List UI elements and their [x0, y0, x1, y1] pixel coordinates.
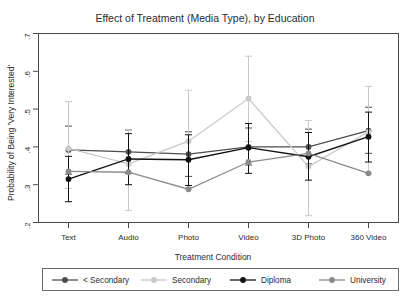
x-tick-label: 360 Video — [351, 233, 387, 242]
data-point — [246, 145, 252, 151]
series-secondary — [65, 56, 372, 216]
plot-frame — [39, 34, 399, 223]
data-point — [366, 134, 372, 140]
data-point — [66, 146, 72, 152]
series-line — [69, 99, 369, 167]
x-axis-ticks: TextAudioPhotoVideo3D Photo360 Video — [61, 223, 387, 243]
chart-series-group — [65, 56, 372, 216]
legend-label-4: University — [350, 276, 387, 285]
x-tick-label: Photo — [178, 233, 199, 242]
y-tick-label: .7 — [23, 33, 32, 40]
data-point — [366, 170, 372, 176]
data-point — [246, 159, 252, 165]
y-tick-label: .5 — [23, 108, 32, 115]
chart-legend: < SecondarySecondaryDiplomaUniversity — [52, 276, 387, 285]
data-point — [186, 157, 192, 163]
data-point — [66, 169, 72, 175]
chart-svg: Effect of Treatment (Media Type), by Edu… — [0, 0, 411, 302]
series-line — [69, 153, 369, 189]
x-axis-label: Treatment Condition — [175, 252, 252, 262]
y-tick-label: .3 — [23, 184, 32, 191]
x-tick-label: Audio — [118, 233, 139, 242]
data-point — [126, 169, 132, 175]
x-tick-label: Video — [238, 233, 259, 242]
legend-marker-4 — [329, 277, 335, 283]
data-point — [246, 96, 252, 102]
y-tick-label: .2 — [23, 222, 32, 229]
x-tick-label: Text — [61, 233, 76, 242]
y-axis-ticks: .7.6.5.4.3.2 — [23, 33, 39, 229]
data-point — [306, 150, 312, 156]
legend-marker-2 — [151, 277, 157, 283]
y-axis-label: Probability of Being 'Very Interested' — [6, 65, 16, 201]
y-tick-label: .4 — [23, 146, 32, 153]
series-line — [69, 131, 369, 154]
x-tick-label: 3D Photo — [292, 233, 326, 242]
series-secondary — [65, 107, 372, 176]
legend-marker-3 — [240, 277, 246, 283]
data-point — [126, 156, 132, 162]
legend-label-2: Secondary — [172, 276, 212, 285]
chart-title: Effect of Treatment (Media Type), by Edu… — [95, 12, 314, 24]
legend-marker-1 — [62, 277, 68, 283]
chart-figure: Effect of Treatment (Media Type), by Edu… — [0, 0, 411, 302]
legend-label-1: < Secondary — [83, 276, 130, 285]
legend-label-3: Diploma — [261, 276, 291, 285]
data-point — [66, 176, 72, 182]
y-tick-label: .6 — [23, 71, 32, 78]
data-point — [186, 186, 192, 192]
